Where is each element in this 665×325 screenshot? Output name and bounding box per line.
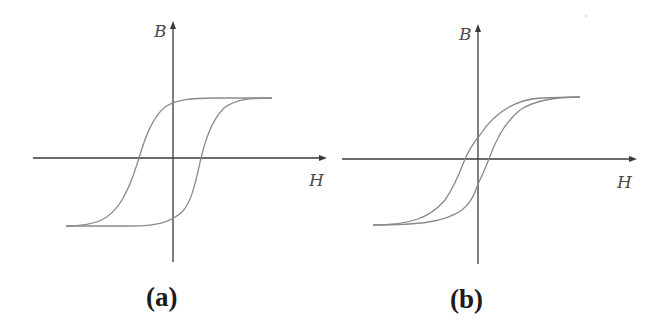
- hysteresis-upper-branch-a: [66, 98, 272, 226]
- scan-speck: [585, 15, 587, 17]
- panel-a: B H (a): [33, 21, 327, 312]
- hysteresis-upper-branch-b: [373, 97, 580, 225]
- h-axis-arrow-icon: [629, 156, 637, 162]
- b-axis-label-a: B: [153, 21, 167, 41]
- b-axis-label-b: B: [458, 24, 472, 44]
- b-axis-arrow-icon: [170, 21, 176, 29]
- panel-b: B H (b): [342, 24, 637, 314]
- hysteresis-figure: B H (a) B H (b): [0, 0, 665, 325]
- b-axis-arrow-icon: [475, 24, 481, 32]
- h-axis-arrow-icon: [319, 155, 327, 161]
- h-axis-label-a: H: [308, 170, 325, 190]
- h-axis-label-b: H: [616, 172, 633, 192]
- panel-label-b: (b): [450, 284, 483, 314]
- hysteresis-lower-branch-b: [373, 97, 580, 225]
- panel-label-a: (a): [146, 282, 177, 312]
- hysteresis-lower-branch-a: [66, 98, 272, 226]
